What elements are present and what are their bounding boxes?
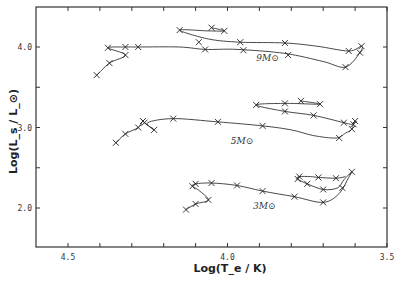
x-marker <box>106 60 112 66</box>
x-marker <box>349 169 355 175</box>
x-marker <box>304 181 310 187</box>
y-tick-label: 3.0 <box>18 124 33 133</box>
x-marker <box>341 120 347 126</box>
x-marker <box>135 125 141 131</box>
mass-label: 9M⊙ <box>256 53 278 63</box>
mass-label: 5M⊙ <box>231 136 253 146</box>
mass-label: 3M⊙ <box>253 201 275 211</box>
plot-frame <box>36 7 387 247</box>
x-marker <box>122 52 128 58</box>
x-marker <box>349 126 355 132</box>
x-marker <box>209 25 215 31</box>
y-axis-title: Log(L_s / L_⊙) <box>7 87 20 177</box>
y-axis-ticks: 2.03.04.0 <box>18 43 387 213</box>
x-marker <box>105 45 111 51</box>
x-marker <box>196 39 202 45</box>
x-marker <box>253 102 259 108</box>
x-marker <box>113 140 119 146</box>
x-tick-label: 4.5 <box>61 253 76 262</box>
x-tick-label: 4.0 <box>220 253 235 262</box>
x-marker <box>205 197 211 203</box>
x-marker <box>285 52 291 58</box>
x-tick-label: 3.5 <box>380 253 395 262</box>
hr-diagram-chart: 4.54.03.5 2.03.04.0 9M⊙5M⊙3M⊙ <box>0 0 395 286</box>
x-marker <box>189 183 195 189</box>
x-marker <box>142 120 148 126</box>
x-marker <box>357 50 363 56</box>
x-marker <box>151 127 157 133</box>
x-marker <box>122 131 128 137</box>
x-marker <box>94 72 100 78</box>
x-axis-title: Log(T_e / K) <box>150 262 310 275</box>
y-tick-label: 4.0 <box>18 43 33 52</box>
evolutionary-tracks <box>97 28 363 210</box>
x-marker <box>358 43 364 49</box>
x-marker <box>193 201 199 207</box>
mass-labels: 9M⊙5M⊙3M⊙ <box>231 53 279 211</box>
track-9Mmsun <box>97 28 363 75</box>
y-tick-label: 2.0 <box>18 204 33 213</box>
x-marker <box>183 207 189 213</box>
